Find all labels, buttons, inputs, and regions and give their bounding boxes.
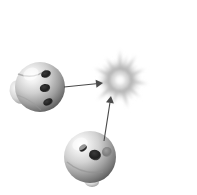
- sphere-left-body: [15, 62, 65, 112]
- arrow-a-head: [96, 80, 103, 88]
- sphere-bottom-spot-3: [102, 147, 112, 157]
- arrow-b-shaft: [104, 103, 110, 141]
- arrow-from-sphere-a: [64, 80, 103, 88]
- objects-layer: [0, 0, 197, 195]
- scene-canvas: Two spheres emitting arrows toward a rad…: [0, 0, 197, 195]
- sphere-bottom[interactable]: [64, 131, 116, 187]
- arrow-b-head: [106, 96, 114, 104]
- arrow-from-sphere-b: [104, 96, 114, 141]
- sphere-left[interactable]: [6, 62, 65, 112]
- arrow-a-shaft: [64, 84, 96, 87]
